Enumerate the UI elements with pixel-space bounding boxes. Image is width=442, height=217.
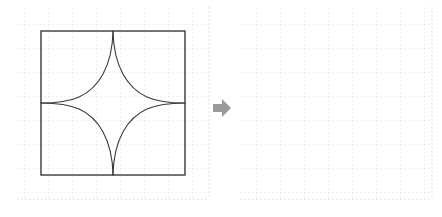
left-panel-canvas [0, 0, 210, 217]
right-panel-canvas [232, 0, 442, 217]
figure-root [0, 0, 442, 217]
right-grid-cells [240, 7, 432, 199]
right-arrow-icon-glyph [213, 99, 231, 117]
right-arrow-icon [210, 93, 234, 123]
transformation-arrow [210, 93, 234, 123]
right-panel-target-grid [232, 0, 442, 217]
left-panel-source-figure [0, 0, 210, 217]
right-grid [240, 7, 432, 199]
